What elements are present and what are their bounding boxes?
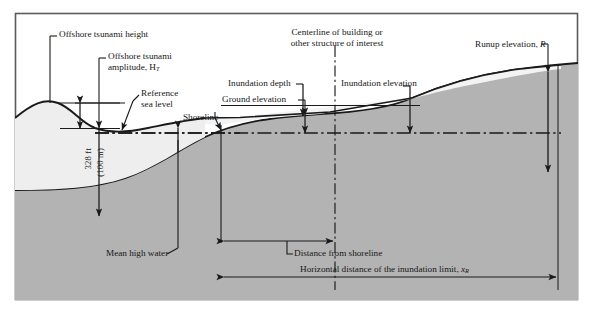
offshore-tsunami-amplitude-line1: Offshore tsunami [108,51,172,61]
reference-sea-level-line1: Reference [141,88,178,98]
reference-sea-level-label: Reference sea level [141,88,178,109]
centerline-line2: other structure of interest [291,38,384,48]
mean-high-water-label: Mean high water [106,248,168,259]
centerline-line1: Centerline of building or [291,27,382,37]
centerline-label: Centerline of building or other structur… [268,27,406,48]
shoreline-label: Shoreline [183,112,218,123]
runup-elevation-label: Runup elevation, R [475,39,546,50]
amplitude-subscript: T [156,65,159,72]
runup-elevation-symbol: R [540,39,546,49]
horizontal-distance-subscript: R [465,267,469,274]
runup-elevation-text: Runup elevation, [475,39,540,49]
inundation-depth-label: Inundation depth [228,78,291,89]
reference-sea-level-line2: sea level [141,99,173,109]
depth-metric-label: (100 m) [95,148,105,177]
offshore-tsunami-amplitude-line2: amplitude, H [108,62,156,72]
ground-elevation-label: Ground elevation [222,94,286,105]
offshore-tsunami-height-label: Offshore tsunami height [59,29,148,40]
depth-imperial-label: 328 ft [83,148,93,170]
inundation-elevation-label: Inundation elevation [341,78,417,89]
distance-from-shoreline-label: Distance from shoreline [294,248,382,259]
horizontal-distance-text: Horizontal distance of the inundation li… [300,264,461,274]
tsunami-inundation-diagram: Offshore tsunami height Offshore tsunami… [0,0,600,314]
offshore-tsunami-amplitude-label: Offshore tsunami amplitude, HT [108,51,172,72]
horizontal-distance-label: Horizontal distance of the inundation li… [300,264,469,275]
